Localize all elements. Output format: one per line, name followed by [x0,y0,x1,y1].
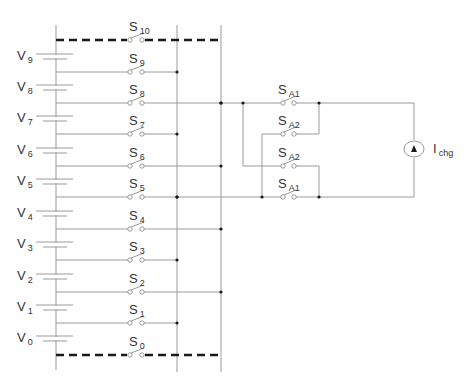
cell-label-v9-main: V [17,48,26,63]
plate-gap [54,275,58,278]
switch-contact-icon [128,38,132,42]
switch-label-sa2: SA2 [278,145,300,162]
plate-gap [54,149,58,152]
switch-row-s7: S7 [56,113,177,136]
switch-label-s5-main: S [129,176,138,191]
cell-label-v6-subscript: 6 [28,149,33,159]
plate-gap [54,117,58,120]
switch-label-s0: S0 [129,334,145,351]
junction-dot [260,195,263,198]
switch-row-s5: S5 [56,176,283,199]
switch-label-s7-main: S [129,113,138,128]
switch-contact-icon [140,227,144,231]
cell-label-v4: V4 [17,205,33,222]
switch-contact-icon [140,353,144,357]
switch-contact-icon [128,290,132,294]
cell-label-v6-main: V [17,142,26,157]
switch-contact-icon [292,132,296,136]
cell-label-v3: V3 [17,236,33,253]
switch-label-s5-subscript: 5 [140,183,145,193]
cell-selection-switches: S10S9S8S7S6S5S4S3S2S1S0 [56,19,283,357]
plate-gap [54,306,58,309]
polarity-switch-a2-2: SA2 [278,145,300,168]
switch-label-sa2: SA2 [278,113,300,130]
switch-label-sa1-subscript: A1 [289,183,300,193]
switch-contact-icon [128,101,132,105]
switch-label-s7-subscript: 7 [140,120,145,130]
switch-label-s10: S10 [129,19,150,36]
current-source-label: Ichg [433,141,453,158]
cell-label-v3-subscript: 3 [28,243,33,253]
switch-label-s2: S2 [129,271,145,288]
cell-label-v7: V7 [17,110,33,127]
cell-label-v5-subscript: 5 [28,180,33,190]
charging-current-source: Ichg [404,103,453,197]
junction-dot [219,290,222,293]
cell-label-v8-main: V [17,79,26,94]
plate-gap [54,212,58,215]
switch-label-s3-main: S [129,239,138,254]
switch-label-s1: S1 [129,302,145,319]
switch-label-s9: S9 [129,51,145,68]
switch-contact-icon [140,132,144,136]
plate-gap [54,337,58,340]
switch-label-s6: S6 [129,145,145,162]
switch-label-s4: S4 [129,208,145,225]
switch-label-sa1: SA1 [278,82,300,99]
switch-label-s0-main: S [129,334,138,349]
cell-label-v5-main: V [17,173,26,188]
cell-label-v9-subscript: 9 [28,55,33,65]
cell-label-v2-main: V [17,268,26,283]
battery-cell-6: V6 [17,142,73,159]
cell-label-v0-subscript: 0 [28,337,33,347]
switch-row-s3: S3 [56,239,177,262]
cell-label-v7-main: V [17,110,26,125]
junction-dot [175,70,178,73]
switch-label-sa2-main: S [278,145,287,160]
switch-contact-icon [128,164,132,168]
plate-gap [54,180,58,183]
switch-label-s6-subscript: 6 [140,152,145,162]
switch-contact-icon [281,164,285,168]
wires [56,25,221,372]
switch-row-s0: S0 [56,334,221,357]
switch-label-s4-subscript: 4 [140,215,145,225]
battery-cell-0: V0 [17,330,73,347]
cell-label-v4-subscript: 4 [28,212,33,222]
switch-label-s2-subscript: 2 [140,278,145,288]
switch-contact-icon [140,164,144,168]
switch-contact-icon [292,164,296,168]
switch-row-s10: S10 [56,19,221,42]
switch-contact-icon [281,101,285,105]
junction-dot [317,195,320,198]
switch-row-s2: S2 [56,271,221,294]
switch-label-sa2-main: S [278,113,287,128]
polarity-switch-bridge: SA1SA2SA2SA1 [243,82,414,199]
battery-cell-8: V8 [17,79,73,96]
switch-label-sa1: SA1 [278,176,300,193]
battery-cell-9: V9 [17,48,73,65]
battery-cell-3: V3 [17,236,73,253]
switch-contact-icon [128,70,132,74]
cell-label-v5: V5 [17,173,33,190]
switch-label-s2-main: S [129,271,138,286]
switch-contact-icon [140,321,144,325]
cell-label-v2-subscript: 2 [28,275,33,285]
switch-contact-icon [140,290,144,294]
switch-row-s1: S1 [56,302,177,325]
junction-dot [317,101,320,104]
switch-contact-icon [128,353,132,357]
switch-label-s8: S8 [129,82,145,99]
switch-row-s8: S8 [56,82,283,105]
switch-row-s6: S6 [56,145,221,168]
current-source-label-subscript: chg [439,148,454,158]
switch-label-sa2-subscript: A2 [289,120,300,130]
plate-gap [54,86,58,89]
cell-label-v1-subscript: 1 [28,306,33,316]
junction-dot [219,164,222,167]
switch-label-s4-main: S [129,208,138,223]
switch-label-s3-subscript: 3 [140,246,145,256]
junction-dot [241,101,244,104]
cell-label-v0: V0 [17,330,33,347]
cell-label-v3-main: V [17,236,26,251]
